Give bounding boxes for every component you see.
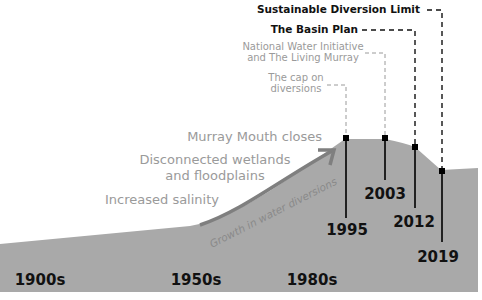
cap-leader-line xyxy=(327,85,346,138)
salinity-label: Increased salinity xyxy=(105,192,219,207)
decade-1900s: 1900s xyxy=(15,271,66,289)
nwi-label-line1: National Water Initiative xyxy=(242,41,363,52)
basin-plan-label: The Basin Plan xyxy=(271,23,358,35)
marker-2012 xyxy=(412,144,418,150)
year-2019: 2019 xyxy=(417,248,459,266)
water-diversion-diagram: Sustainable Diversion Limit The Basin Pl… xyxy=(0,0,482,300)
year-1995: 1995 xyxy=(326,221,368,239)
marker-2003 xyxy=(382,135,388,141)
decade-1980s: 1980s xyxy=(287,271,338,289)
wetlands-label-line1: Disconnected wetlands xyxy=(139,152,290,167)
year-2003: 2003 xyxy=(364,185,406,203)
year-2012: 2012 xyxy=(393,213,435,231)
murray-mouth-label: Murray Mouth closes xyxy=(187,129,322,144)
nwi-leader-line xyxy=(365,53,385,138)
cap-label-line2: diversions xyxy=(271,83,322,94)
nwi-label-line2: and The Living Murray xyxy=(247,52,359,63)
cap-label-line1: The cap on xyxy=(267,72,323,83)
wetlands-label-line2: and floodplains xyxy=(165,168,265,183)
sdl-leader-line xyxy=(427,10,442,170)
marker-1995 xyxy=(343,135,349,141)
decade-1950s: 1950s xyxy=(171,271,222,289)
marker-2019 xyxy=(439,168,445,174)
sdl-label: Sustainable Diversion Limit xyxy=(257,3,420,15)
basin-plan-leader-line xyxy=(362,30,415,146)
